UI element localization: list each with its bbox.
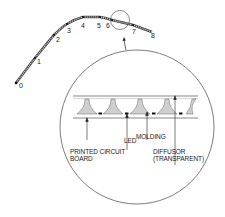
detail-circle	[60, 50, 214, 204]
point-label-7: 7	[132, 28, 136, 35]
point-label-4: 4	[81, 22, 85, 29]
point-label-6: 6	[106, 22, 110, 29]
diagram-canvas	[0, 0, 225, 217]
label-led: LED	[124, 137, 136, 144]
point-label-8: 8	[151, 32, 155, 39]
point-label-3: 3	[67, 27, 71, 34]
label-molding: MOLDING	[136, 133, 166, 140]
label-pcb-line2: BOARD	[70, 155, 93, 162]
label-pcb-line1: PRINTED CIRCUIT	[70, 148, 125, 155]
magnify-arrow	[123, 37, 127, 50]
point-label-1: 1	[37, 58, 41, 65]
moldings	[77, 99, 196, 114]
path-nodes	[15, 16, 134, 84]
label-diffusor-line2: (TRANSPARENT)	[153, 155, 204, 162]
point-label-5: 5	[97, 22, 101, 29]
cross-section	[73, 96, 198, 118]
point-label-0: 0	[19, 82, 23, 89]
label-diffusor-line1: DIFFUSOR	[153, 148, 185, 155]
point-label-2: 2	[56, 36, 60, 43]
